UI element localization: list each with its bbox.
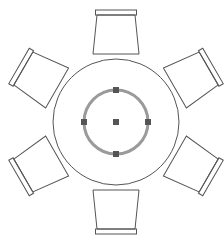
chair[interactable]: [163, 136, 224, 198]
chair-seat: [12, 49, 69, 108]
chair-back: [198, 48, 223, 86]
chair-seat: [12, 136, 69, 195]
chair-back: [9, 48, 34, 86]
chair-back: [9, 158, 34, 196]
grips-group: [81, 87, 151, 157]
chair[interactable]: [93, 190, 139, 234]
chair-back: [96, 229, 137, 234]
chair[interactable]: [8, 46, 69, 108]
chair-seat: [93, 15, 139, 54]
grip-bottom[interactable]: [113, 151, 119, 157]
chair-back: [198, 158, 223, 196]
chair-seat: [163, 49, 220, 108]
grip-right[interactable]: [145, 119, 151, 125]
chair[interactable]: [163, 46, 224, 108]
chair[interactable]: [93, 10, 139, 54]
chair-seat: [163, 136, 220, 195]
grip-center[interactable]: [113, 119, 119, 125]
chair-back: [96, 10, 137, 15]
table-drawing-canvas: [0, 0, 224, 242]
chair[interactable]: [8, 136, 69, 198]
grip-left[interactable]: [81, 119, 87, 125]
grip-top[interactable]: [113, 87, 119, 93]
chair-seat: [93, 190, 139, 229]
